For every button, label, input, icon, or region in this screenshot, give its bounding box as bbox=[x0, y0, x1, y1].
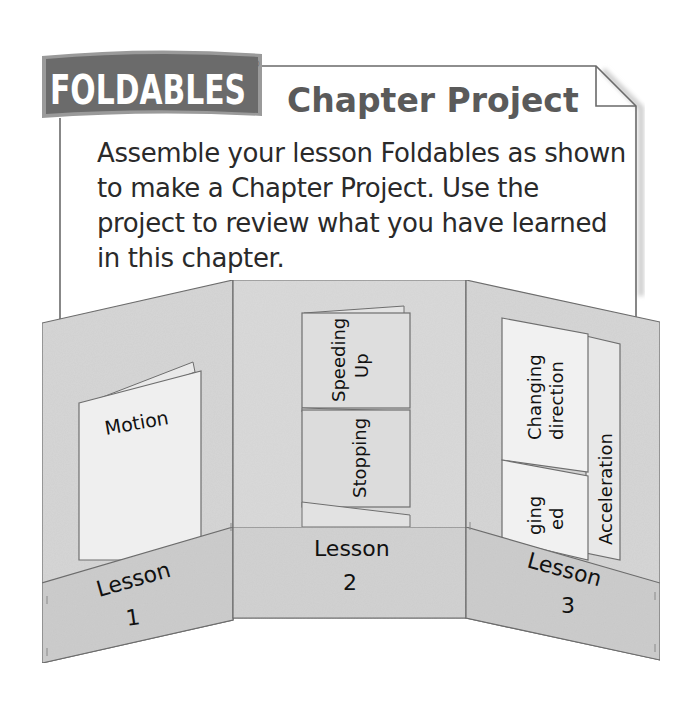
logo-text: FOLDABLES bbox=[50, 67, 246, 113]
foldables-chapter-project: FOLDABLES ® Chapter Project Motion Speed… bbox=[0, 0, 691, 705]
pocket-label-lesson-2: Lesson bbox=[314, 536, 390, 561]
booklet-label-up: Up bbox=[351, 353, 372, 378]
pocket-number-lesson-2: 2 bbox=[343, 570, 357, 595]
pocket-number-lesson-3: 3 bbox=[561, 593, 575, 618]
booklet-label-acceleration: Acceleration bbox=[595, 433, 616, 545]
registered-mark: ® bbox=[248, 56, 261, 71]
booklet-label-changing-partial: ging bbox=[524, 496, 545, 535]
booklet-label-stopping: Stopping bbox=[349, 418, 370, 498]
booklet-changing-direction bbox=[502, 318, 588, 472]
booklet-label-direction: direction bbox=[546, 361, 567, 440]
instructions-text: Assemble your lesson Foldables as shown … bbox=[97, 136, 627, 276]
booklet-label-changing: Changing bbox=[524, 354, 545, 440]
booklet-label-speeding: Speeding bbox=[328, 318, 349, 402]
foldables-logo: FOLDABLES ® bbox=[42, 50, 262, 118]
page-title: Chapter Project bbox=[287, 81, 579, 120]
illustration: FOLDABLES ® Chapter Project Motion Speed… bbox=[0, 0, 691, 705]
booklet-label-speed-partial: ed bbox=[546, 508, 567, 531]
